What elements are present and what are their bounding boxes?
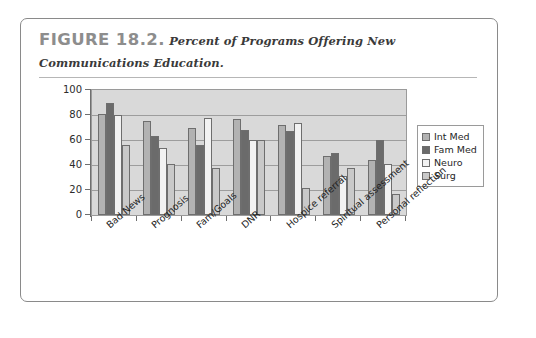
legend-swatch-icon <box>422 146 430 154</box>
bar-fam-med[interactable] <box>241 130 249 215</box>
bar-int-med[interactable] <box>98 114 106 215</box>
y-axis-tick-label: 100 <box>63 84 82 95</box>
x-axis-tick-mark <box>181 216 182 221</box>
bar-neuro[interactable] <box>294 123 302 216</box>
bar-neuro[interactable] <box>114 115 122 215</box>
bar-group <box>92 90 137 215</box>
bar-fam-med[interactable] <box>196 145 204 215</box>
legend-label: Int Med <box>434 131 470 142</box>
caption-divider <box>39 77 477 78</box>
y-axis-tick-label: 0 <box>76 209 82 220</box>
bar-neuro[interactable] <box>249 140 257 215</box>
bar-group <box>271 90 316 215</box>
x-axis-tick-mark <box>405 216 406 221</box>
bar-fam-med[interactable] <box>151 136 159 215</box>
bar-int-med[interactable] <box>278 125 286 215</box>
x-axis-tick-mark <box>360 216 361 221</box>
legend-swatch-icon <box>422 133 430 141</box>
y-axis-tick-label: 60 <box>69 134 82 145</box>
legend-item[interactable]: Fam Med <box>422 143 477 156</box>
bar-surg[interactable] <box>257 140 265 215</box>
x-axis-tick-mark <box>226 216 227 221</box>
bar-neuro[interactable] <box>159 148 167 216</box>
y-axis-tick-label: 20 <box>69 184 82 195</box>
legend-item[interactable]: Int Med <box>422 130 477 143</box>
y-axis-tick-label: 40 <box>69 159 82 170</box>
bar-group <box>182 90 227 215</box>
legend-swatch-icon <box>422 159 430 167</box>
bar-fam-med[interactable] <box>106 103 114 216</box>
bar-neuro[interactable] <box>204 118 212 216</box>
bar-int-med[interactable] <box>188 128 196 216</box>
y-axis-tick-label: 80 <box>69 109 82 120</box>
x-axis-tick-mark <box>136 216 137 221</box>
figure-caption: FIGURE 18.2. Percent of Programs Offerin… <box>39 29 475 72</box>
y-axis: 020406080100 <box>39 83 91 218</box>
figure-container: FIGURE 18.2. Percent of Programs Offerin… <box>20 18 498 302</box>
legend-label: Fam Med <box>434 144 477 155</box>
legend-item[interactable]: Neuro <box>422 156 477 169</box>
bar-chart: 020406080100 Int MedFam MedNeuroSurg Bad… <box>39 83 481 295</box>
x-axis-tick-mark <box>91 216 92 221</box>
figure-number: FIGURE 18.2. <box>39 30 165 49</box>
x-axis-tick-mark <box>270 216 271 221</box>
x-axis-tick-mark <box>315 216 316 221</box>
bar-fam-med[interactable] <box>286 131 294 215</box>
